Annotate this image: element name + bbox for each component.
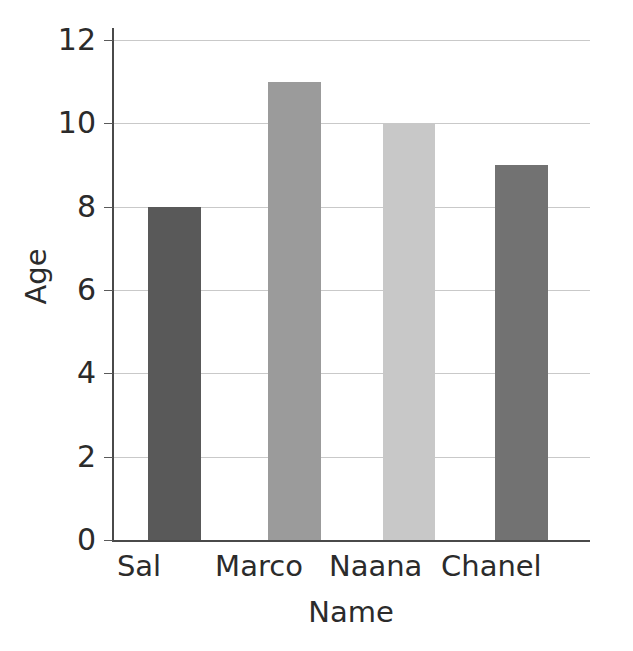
y-tick-mark-2 xyxy=(104,457,113,458)
x-tick-label-naana: Naana xyxy=(329,552,419,581)
gridline-10 xyxy=(112,123,590,124)
y-tick-mark-4 xyxy=(104,373,113,374)
y-tick-label-10: 10 xyxy=(48,108,96,138)
x-tick-label-sal: Sal xyxy=(94,552,184,581)
bar-chanel xyxy=(495,165,548,540)
y-tick-label-2: 2 xyxy=(48,442,96,472)
y-tick-mark-10 xyxy=(104,123,113,124)
plot-area xyxy=(112,40,590,540)
x-tick-label-chanel: Chanel xyxy=(441,552,531,581)
bar-chart-figure: 12 10 8 6 4 2 0 Sal Marco Naana Chanel N… xyxy=(0,0,633,651)
y-axis-line xyxy=(112,28,114,541)
bar-naana xyxy=(383,123,435,540)
y-axis-title: Age xyxy=(22,227,51,327)
y-tick-mark-12 xyxy=(104,40,113,41)
gridline-12 xyxy=(112,40,590,41)
y-tick-label-12: 12 xyxy=(48,25,96,55)
y-tick-label-6: 6 xyxy=(48,275,96,305)
x-axis-title: Name xyxy=(112,598,590,627)
y-tick-label-4: 4 xyxy=(48,358,96,388)
x-tick-label-marco: Marco xyxy=(214,552,304,581)
x-axis-line xyxy=(112,540,590,542)
y-tick-mark-6 xyxy=(104,290,113,291)
bar-sal xyxy=(148,207,201,540)
y-tick-mark-8 xyxy=(104,207,113,208)
bar-marco xyxy=(268,82,321,540)
y-tick-label-0: 0 xyxy=(48,525,96,555)
y-tick-mark-0 xyxy=(104,540,113,541)
y-tick-label-8: 8 xyxy=(48,192,96,222)
